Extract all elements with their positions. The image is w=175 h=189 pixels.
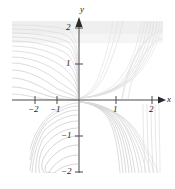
y-tick-label-2: 2 — [66, 23, 71, 32]
x-tick-label-2: 2 — [149, 105, 154, 114]
top-shade-band — [12, 21, 163, 43]
y-tick-label--1: −1 — [61, 131, 72, 140]
x-tick-label--2: −2 — [28, 105, 39, 114]
y-tick-label--2: −2 — [61, 167, 72, 176]
x-tick-label-1: 1 — [113, 105, 118, 114]
x-tick-label--1: −1 — [50, 105, 61, 114]
y-tick-label-1: 1 — [66, 59, 71, 68]
y-axis-label: y — [80, 5, 84, 14]
x-axis-arrowhead — [158, 97, 166, 104]
plot-canvas — [0, 0, 175, 189]
x-axis-label: x — [167, 95, 171, 104]
contour-plot-figure: −2 −1 1 2 2 1 −1 −2 x y — [0, 0, 175, 189]
